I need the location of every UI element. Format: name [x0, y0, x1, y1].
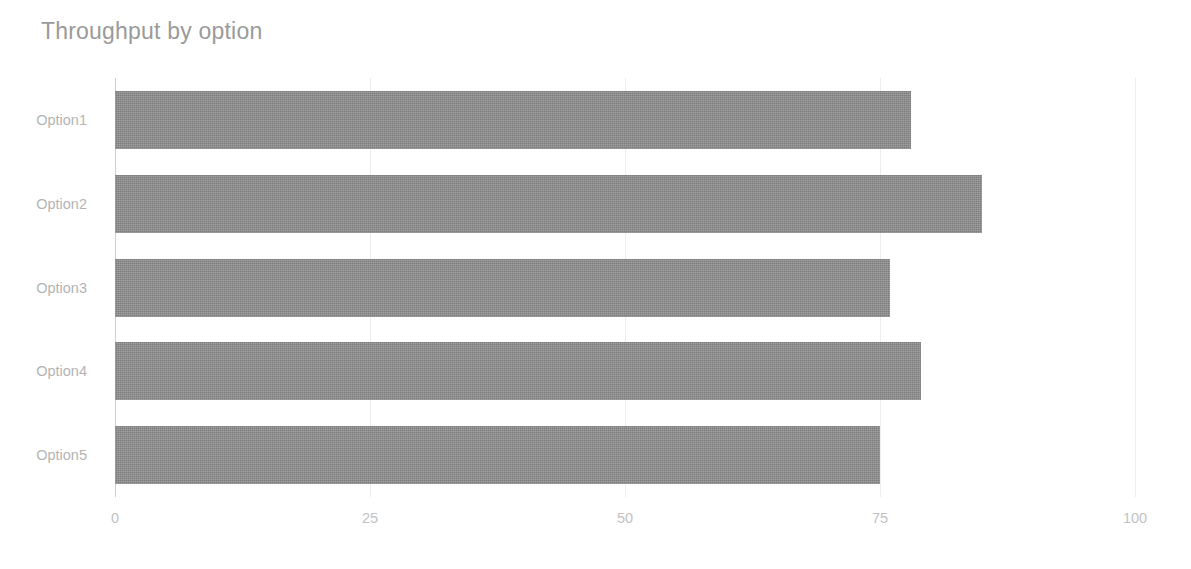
y-axis-label-option2: Option2 — [36, 197, 87, 212]
y-axis-label-option5: Option5 — [36, 448, 87, 463]
bar-option2[interactable] — [115, 175, 982, 233]
x-axis-tick-25: 25 — [362, 511, 378, 526]
bar-option1[interactable] — [115, 91, 911, 149]
x-axis-tick-0: 0 — [111, 511, 119, 526]
y-axis-label-option1: Option1 — [36, 113, 87, 128]
x-axis-tick-50: 50 — [617, 511, 633, 526]
bar-chart: Throughput by option Option1Option2Optio… — [0, 0, 1191, 569]
x-axis-tick-100: 100 — [1123, 511, 1147, 526]
bar-option5[interactable] — [115, 426, 880, 484]
bar-option4[interactable] — [115, 342, 921, 400]
y-axis-label-option3: Option3 — [36, 281, 87, 296]
plot-area — [115, 78, 1135, 497]
x-axis-tick-75: 75 — [872, 511, 888, 526]
bar-option3[interactable] — [115, 259, 890, 317]
chart-title: Throughput by option — [41, 18, 262, 45]
y-axis-label-option4: Option4 — [36, 364, 87, 379]
gridline-100 — [1135, 78, 1136, 497]
